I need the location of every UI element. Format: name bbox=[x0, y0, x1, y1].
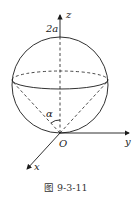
sphere-cone-diagram: z 2a α O y x 图 9-3-11 bbox=[0, 0, 139, 202]
z-axis-label: z bbox=[65, 9, 72, 20]
figure-caption: 图 9-3-11 bbox=[44, 182, 88, 193]
sphere-outline bbox=[12, 37, 108, 133]
y-axis-label: y bbox=[124, 136, 131, 147]
x-axis bbox=[27, 133, 60, 169]
top-point-label: 2a bbox=[45, 23, 58, 34]
origin-label: O bbox=[59, 138, 67, 149]
x-axis-label: x bbox=[34, 161, 40, 172]
angle-arc bbox=[51, 120, 60, 123]
angle-label: α bbox=[46, 108, 53, 119]
